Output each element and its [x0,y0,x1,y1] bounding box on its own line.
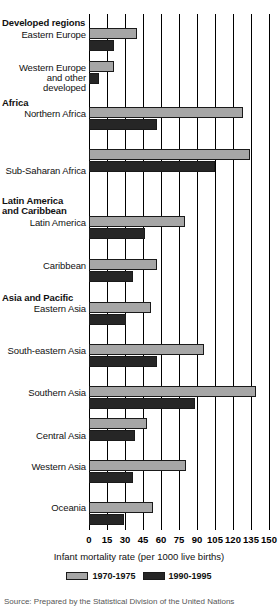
x-tick-45: 45 [138,534,149,545]
category-label-latin-america: Latin America [0,218,86,229]
legend-swatch-1970-1975-icon [66,572,88,580]
plot-area [89,14,269,530]
bar-south-eastern-asia-1990-1995 [89,356,157,367]
bar-eastern-asia-1990-1995 [89,314,126,325]
legend-item-1970-1975: 1970-1975 [66,571,135,581]
x-tick-75: 75 [174,534,185,545]
category-label-sub-saharan-africa: Sub-Saharan Africa [0,166,86,177]
chart-legend: 1970-1975 1990-1995 [0,571,278,581]
category-label-caribbean: Caribbean [0,261,86,272]
category-label-eastern-europe: Eastern Europe [0,30,86,41]
category-label-oceania: Oceania [0,503,86,514]
bar-caribbean-1970-1975 [89,259,157,270]
category-label-south-eastern-asia: South-eastern Asia [0,346,86,357]
bar-oceania-1990-1995 [89,514,124,525]
category-label-central-asia: Central Asia [0,431,86,442]
x-tick-0: 0 [86,534,91,545]
bar-eastern-europe-1970-1975 [89,28,137,39]
category-label-western-europe-line3: developed [0,83,86,94]
bar-western-asia-1990-1995 [89,472,133,483]
x-axis-tick-labels: 0 15 30 45 60 75 90 105 120 135 150 [0,534,278,550]
source-note: Source: Prepared by the Statistical Divi… [4,597,276,606]
bar-south-eastern-asia-1970-1975 [89,344,204,355]
bar-western-asia-1970-1975 [89,460,186,471]
bar-western-europe-1990-1995 [89,73,99,84]
bar-western-europe-1970-1975 [89,61,114,72]
x-tick-105: 105 [207,534,223,545]
category-label-southern-asia: Southern Asia [0,388,86,399]
category-label-column: Developed regions Eastern Europe Western… [0,14,86,530]
bar-northern-africa-1970-1975 [89,107,243,118]
x-tick-120: 120 [225,534,241,545]
bar-latin-america-1990-1995 [89,228,145,239]
legend-swatch-1990-1995-icon [143,572,165,580]
x-tick-150: 150 [261,534,277,545]
category-label-eastern-asia: Eastern Asia [0,304,86,315]
x-tick-135: 135 [243,534,259,545]
x-tick-90: 90 [192,534,203,545]
bar-sub-saharan-africa-1990-1995 [89,161,215,172]
legend-label-1970-1975: 1970-1975 [92,571,135,581]
category-label-western-asia: Western Asia [0,462,86,473]
bar-latin-america-1970-1975 [89,216,185,227]
bar-central-asia-1970-1975 [89,418,147,429]
bar-eastern-europe-1990-1995 [89,40,114,51]
legend-label-1990-1995: 1990-1995 [169,571,212,581]
bar-sub-saharan-africa-1970-1975 [89,149,250,160]
bar-northern-africa-1990-1995 [89,119,157,130]
bar-southern-asia-1970-1975 [89,386,256,397]
bar-southern-asia-1990-1995 [89,398,195,409]
bar-eastern-asia-1970-1975 [89,302,151,313]
x-tick-30: 30 [120,534,131,545]
x-axis-title: Infant mortality rate (per 1000 live bir… [0,551,278,562]
bar-rows [89,14,269,530]
bar-central-asia-1990-1995 [89,430,135,441]
category-label-northern-africa: Northern Africa [0,109,86,120]
gridline-150 [269,14,270,530]
x-tick-60: 60 [156,534,167,545]
bar-oceania-1970-1975 [89,502,153,513]
x-tick-15: 15 [102,534,113,545]
bar-caribbean-1990-1995 [89,271,133,282]
legend-item-1990-1995: 1990-1995 [143,571,212,581]
